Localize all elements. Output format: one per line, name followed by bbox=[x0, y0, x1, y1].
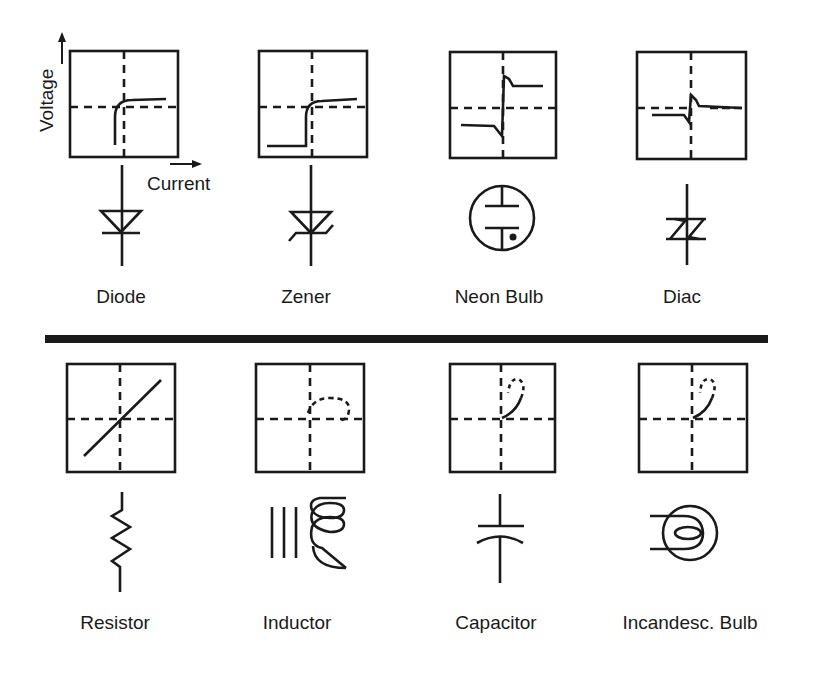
resistor-iv-curve bbox=[67, 364, 175, 472]
inductor-symbol bbox=[272, 498, 346, 568]
component-iv-diagram bbox=[0, 0, 813, 673]
current-axis-label: Current bbox=[147, 173, 210, 195]
capacitor-symbol bbox=[477, 494, 524, 583]
diac-iv-curve bbox=[637, 52, 746, 159]
zener-label: Zener bbox=[206, 286, 406, 308]
resistor-symbol bbox=[112, 492, 130, 592]
diode-symbol bbox=[101, 165, 141, 266]
inductor-iv-curve bbox=[256, 364, 364, 472]
diac-symbol bbox=[666, 184, 706, 265]
voltage-axis-label: Voltage bbox=[36, 69, 58, 132]
incandescent-bulb-label: Incandesc. Bulb bbox=[590, 612, 790, 634]
zener-iv-curve bbox=[259, 51, 367, 157]
resistor-label: Resistor bbox=[15, 612, 215, 634]
diode-iv-curve bbox=[70, 51, 178, 157]
capacitor-iv-curve bbox=[450, 364, 555, 472]
diode-label: Diode bbox=[21, 286, 221, 308]
neon-bulb-label: Neon Bulb bbox=[399, 286, 599, 308]
incandescent-bulb-symbol bbox=[650, 506, 717, 560]
divider-bar bbox=[45, 335, 768, 343]
neon-bulb-symbol bbox=[470, 186, 534, 250]
capacitor-label: Capacitor bbox=[396, 612, 596, 634]
incandescent-bulb-iv-curve bbox=[639, 364, 747, 472]
neon-bulb-iv-curve bbox=[450, 52, 556, 158]
diac-label: Diac bbox=[582, 286, 782, 308]
zener-symbol bbox=[289, 165, 333, 266]
inductor-label: Inductor bbox=[197, 612, 397, 634]
